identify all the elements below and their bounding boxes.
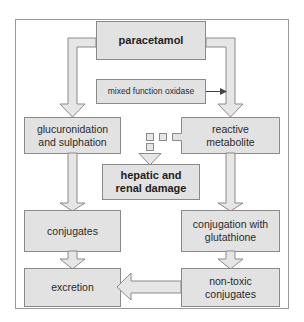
dashed-square [147,144,154,151]
paracetamol-metabolism-diagram [0,0,304,322]
node-conjugation-glutathione [182,211,280,252]
node-glucuronidation [25,118,121,154]
dashed-square [147,134,154,141]
node-conjugates [25,211,121,252]
node-non-toxic-conjugates [182,269,280,307]
node-excretion [25,269,121,307]
node-mixed-function-oxidase [97,80,206,104]
node-paracetamol [97,22,206,60]
node-reactive-metabolite [173,118,280,154]
node-hepatic-damage [103,165,200,200]
dashed-square [160,134,167,141]
